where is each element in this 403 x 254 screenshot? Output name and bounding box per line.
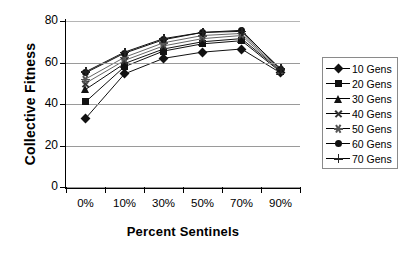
x-marker-icon — [334, 109, 343, 118]
x-axis-tick — [105, 187, 106, 193]
legend-symbol — [326, 77, 350, 91]
legend-label: 40 Gens — [350, 108, 392, 120]
data-point-plus — [198, 28, 207, 37]
diamond-marker-icon — [333, 64, 343, 74]
legend-symbol — [326, 152, 350, 166]
y-axis-tick-label: 20 — [26, 139, 58, 151]
x-axis-tick — [183, 187, 184, 193]
legend-label: 70 Gens — [350, 153, 392, 165]
legend-item[interactable]: 40 Gens — [326, 106, 395, 121]
legend-item[interactable]: 20 Gens — [326, 76, 395, 91]
y-axis-tick — [60, 21, 66, 22]
star-marker-icon — [334, 124, 343, 133]
legend-item[interactable]: 50 Gens — [326, 121, 395, 136]
legend-symbol — [326, 137, 350, 151]
data-point-square — [82, 98, 89, 105]
x-axis-title: Percent Sentinels — [66, 224, 300, 239]
y-axis-tick-label: 40 — [26, 97, 58, 109]
x-axis-tick — [261, 187, 262, 193]
circle-marker-icon — [335, 140, 342, 147]
gridline — [66, 63, 300, 64]
data-point-plus — [159, 34, 168, 43]
series-line — [86, 39, 281, 90]
legend-symbol — [326, 62, 350, 76]
series-line — [86, 49, 281, 119]
y-axis-tick — [60, 63, 66, 64]
y-axis-tick-label: 0 — [26, 180, 58, 192]
x-axis-tick — [300, 187, 301, 193]
legend-item[interactable]: 10 Gens — [326, 61, 395, 76]
data-point-plus — [81, 67, 90, 76]
legend-label: 50 Gens — [350, 123, 392, 135]
legend-item[interactable]: 60 Gens — [326, 136, 395, 151]
legend-label: 30 Gens — [350, 93, 392, 105]
series-line — [86, 41, 281, 102]
legend-item[interactable]: 30 Gens — [326, 91, 395, 106]
plot-area: 0204060800%10%30%50%70%90% — [66, 21, 300, 187]
data-point-plus — [237, 27, 246, 36]
y-axis-tick-label: 60 — [26, 56, 58, 68]
data-point-plus — [276, 64, 285, 73]
legend-symbol — [326, 92, 350, 106]
x-axis-tick — [222, 187, 223, 193]
legend-item[interactable]: 70 Gens — [326, 151, 395, 166]
x-axis-tick-label: 90% — [258, 197, 304, 209]
square-marker-icon — [335, 80, 342, 87]
x-axis-tick — [144, 187, 145, 193]
y-axis-tick — [60, 146, 66, 147]
gridline — [66, 146, 300, 147]
chart-figure: Collective Fitness Percent Sentinels 020… — [0, 0, 403, 254]
plus-marker-icon — [334, 154, 343, 163]
legend-label: 10 Gens — [350, 63, 392, 75]
legend-symbol — [326, 107, 350, 121]
legend-symbol — [326, 122, 350, 136]
triangle-marker-icon — [334, 95, 342, 103]
gridline — [66, 104, 300, 105]
y-axis-tick — [60, 104, 66, 105]
chart-legend: 10 Gens20 Gens30 Gens40 Gens50 Gens60 Ge… — [322, 57, 398, 169]
legend-label: 20 Gens — [350, 78, 392, 90]
legend-label: 60 Gens — [350, 138, 392, 150]
data-point-plus — [120, 48, 129, 57]
y-axis-tick-label: 80 — [26, 14, 58, 26]
x-axis-tick — [66, 187, 67, 193]
